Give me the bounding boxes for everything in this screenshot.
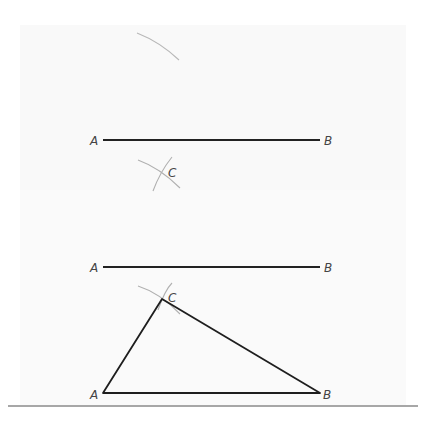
point-b-label-2: B xyxy=(324,261,332,275)
vertex-a-label: A xyxy=(89,388,98,402)
point-c-label: C xyxy=(168,166,177,180)
step1-construction: A B C xyxy=(89,33,332,191)
vertex-b-label: B xyxy=(323,388,331,402)
step2-construction: A B C A B xyxy=(89,261,332,402)
vertex-c-label: C xyxy=(168,291,177,305)
point-a-label: A xyxy=(89,134,98,148)
point-a-label-2: A xyxy=(89,261,98,275)
point-b-label: B xyxy=(324,134,332,148)
compass-arc-upper xyxy=(137,33,179,60)
construction-diagram: A B C A B C A B xyxy=(0,0,421,432)
triangle-abc xyxy=(103,299,320,393)
